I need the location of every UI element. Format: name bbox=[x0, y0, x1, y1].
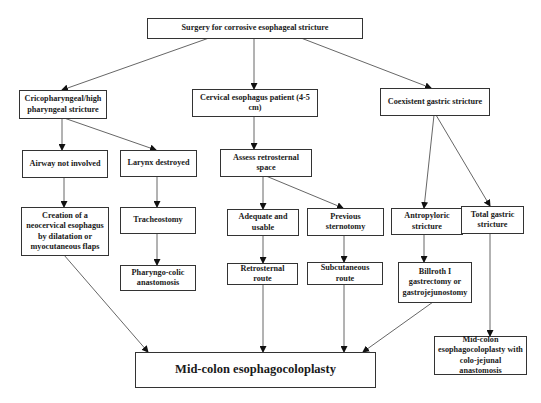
node-subcutaneous-route: Subcutaneous route bbox=[307, 262, 383, 285]
node-larynx-destroyed: Larynx destroyed bbox=[120, 150, 197, 177]
node-coexistent-gastric-stricture: Coexistent gastric stricture bbox=[380, 88, 490, 116]
node-previous-sternotomy: Previous sternotomy bbox=[307, 208, 384, 236]
arrow-crico-to-larynx bbox=[64, 118, 156, 150]
node-cricopharyngeal-stricture: Cricopharyngeal/high pharyngeal strictur… bbox=[19, 90, 107, 119]
node-total-gastric-stricture: Total gastric stricture bbox=[461, 206, 524, 234]
node-pharyngo-colic-anastomosis: Pharyngo-colic anastomosis bbox=[120, 265, 196, 291]
node-adequate-usable: Adequate and usable bbox=[227, 209, 299, 236]
node-mid-colon-colo-jejunal: Mid-colon esophagocoloplasty with colo-j… bbox=[434, 336, 527, 375]
node-assess-retrosternal-space: Assess retrosternal space bbox=[220, 149, 312, 177]
node-creation-neocervical: Creation of a neocervical esophagus by d… bbox=[21, 207, 109, 256]
node-root: Surgery for corrosive esophageal strictu… bbox=[147, 18, 363, 39]
arrow-billroth-to-midcolon bbox=[363, 302, 433, 352]
arrow-root-to-coexistent bbox=[301, 38, 431, 88]
node-antropyloric-stricture: Antropyloric stricture bbox=[391, 208, 463, 235]
node-retrosternal-route: Retrosternal route bbox=[227, 263, 298, 285]
node-billroth-gastrectomy: Billroth I gastrectomy or gastrojejunost… bbox=[398, 262, 472, 303]
arrow-coexistent-to-antropyloric bbox=[424, 115, 434, 208]
node-airway-not-involved: Airway not involved bbox=[22, 150, 108, 178]
node-mid-colon-esophagocoloplasty: Mid-colon esophagocoloplasty bbox=[135, 352, 376, 388]
arrow-assess-to-previous bbox=[266, 176, 343, 208]
node-tracheostomy: Tracheostomy bbox=[120, 207, 196, 234]
flowchart-canvas: Surgery for corrosive esophageal strictu… bbox=[0, 0, 541, 403]
arrow-coexistent-to-total bbox=[436, 115, 490, 206]
node-cervical-esophagus: Cervical esophagus patient (4-5 cm) bbox=[192, 89, 318, 117]
arrow-root-to-crico bbox=[62, 38, 209, 90]
